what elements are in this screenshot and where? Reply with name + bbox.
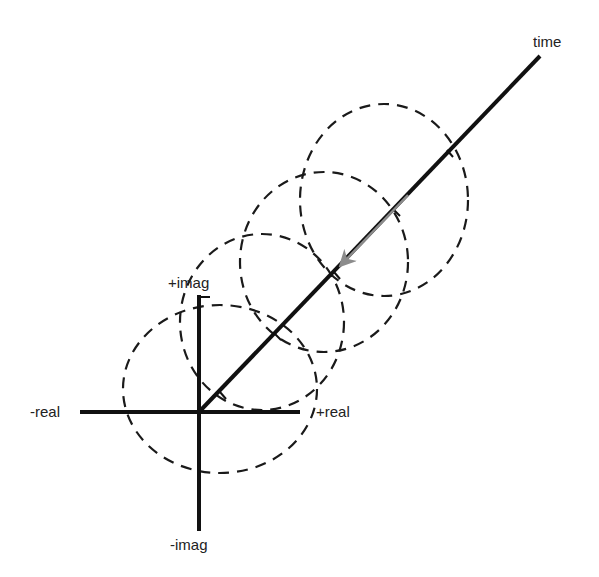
label-pos-real: +real <box>316 403 350 420</box>
label-pos-imag: +imag <box>168 274 209 291</box>
time-axis-ticks <box>220 150 453 399</box>
time-direction-arrow <box>341 195 408 265</box>
label-time: time <box>533 33 561 50</box>
helix-circle-3 <box>240 172 408 352</box>
helix-diagram: time +imag -imag -real +real <box>0 0 599 577</box>
label-neg-imag: -imag <box>170 536 208 553</box>
label-neg-real: -real <box>30 403 60 420</box>
